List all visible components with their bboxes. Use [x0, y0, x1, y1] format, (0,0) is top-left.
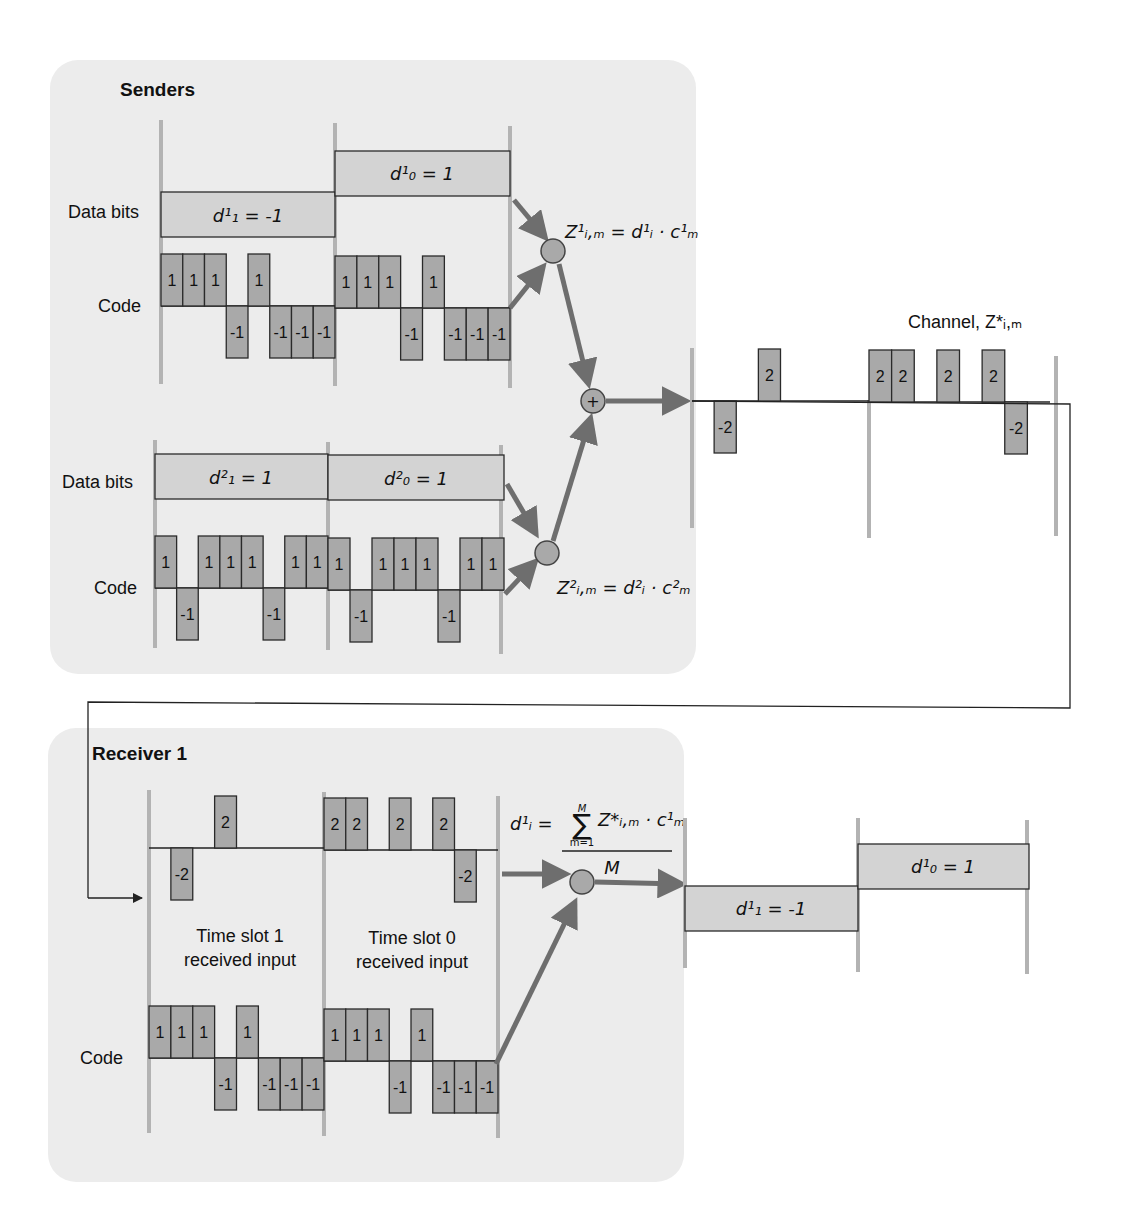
sender1-bit1-label: d¹₁ = -1	[213, 205, 283, 226]
chip-value: 1	[417, 1027, 426, 1044]
chip-value: 1	[205, 554, 214, 571]
chip-value: -1	[284, 1076, 298, 1093]
chip-value: -1	[393, 1079, 407, 1096]
chip-value: -1	[437, 1079, 451, 1096]
receiver-code-label: Code	[80, 1048, 123, 1068]
output-bit0: d¹₀ = 1	[858, 844, 1029, 889]
chip-value: 2	[396, 816, 405, 833]
chip-value: 2	[439, 816, 448, 833]
chip-value: -1	[218, 1076, 232, 1093]
sender2-data-label: Data bits	[62, 472, 133, 492]
slot1-caption-line2: received input	[184, 950, 296, 970]
chip-value: 1	[341, 274, 350, 291]
sender1-bit0-label: d¹₀ = 1	[390, 163, 454, 184]
chip-value: 1	[423, 556, 432, 573]
chip-value: 1	[313, 554, 322, 571]
output-bit1: d¹₁ = -1	[685, 886, 858, 931]
sender1-data-label: Data bits	[68, 202, 139, 222]
chip-value: 2	[944, 368, 953, 385]
chip-value: 1	[254, 272, 263, 289]
chip-value: 2	[898, 368, 907, 385]
formula-lhs: d¹ᵢ =	[510, 813, 553, 834]
sender1-product-formula: Z¹ᵢ,ₘ = d¹ᵢ · c¹ₘ	[564, 221, 699, 242]
chip-value: -1	[230, 324, 244, 341]
chip-value: -1	[180, 606, 194, 623]
chip-value: -1	[274, 324, 288, 341]
chip-value: 1	[177, 1024, 186, 1041]
chip-value: 2	[221, 814, 230, 831]
chip-value: -1	[306, 1076, 320, 1093]
sender2-bit1: d²₁ = 1	[155, 454, 328, 499]
sender1-multiply-node	[541, 239, 565, 263]
chip-value: 2	[352, 816, 361, 833]
chip-value: -1	[404, 326, 418, 343]
chip-value: -1	[262, 1076, 276, 1093]
receiver-multiply-node	[570, 870, 594, 894]
chip-value: 1	[226, 554, 235, 571]
chip-value: 1	[189, 272, 198, 289]
plus-icon: +	[586, 392, 599, 411]
sender1-bit1: d¹₁ = -1	[161, 192, 335, 237]
chip-value: -2	[718, 419, 732, 436]
chip-value: -2	[1009, 420, 1023, 437]
sender2-bit0-label: d²₀ = 1	[384, 468, 448, 489]
sender2-multiply-node	[535, 541, 559, 565]
senders-title: Senders	[120, 79, 195, 100]
formula-lower-limit: m=1	[570, 837, 594, 848]
chip-value: 2	[765, 367, 774, 384]
chip-value: -1	[442, 608, 456, 625]
chip-value: 1	[167, 272, 176, 289]
chip-value: -1	[470, 326, 484, 343]
chip-value: -1	[448, 326, 462, 343]
chip-value: -1	[295, 324, 309, 341]
formula-numerator: Z*ᵢ,ₘ · c¹ₘ	[597, 809, 685, 830]
chip-value: 1	[467, 556, 476, 573]
chip-value: 1	[211, 272, 220, 289]
sender1-code-label: Code	[98, 296, 141, 316]
slot1-caption-line1: Time slot 1	[196, 926, 283, 946]
chip-value: 1	[379, 556, 388, 573]
chip-value: -1	[317, 324, 331, 341]
receiver-title: Receiver 1	[92, 743, 188, 764]
chip-value: 1	[291, 554, 300, 571]
chip-value: 1	[248, 554, 257, 571]
chip-value: 1	[374, 1027, 383, 1044]
chip-value: 1	[489, 556, 498, 573]
chip-value: 1	[363, 274, 372, 291]
chip-value: 1	[429, 274, 438, 291]
sender1-bit0: d¹₀ = 1	[335, 151, 510, 196]
chip-value: 1	[243, 1024, 252, 1041]
chip-value: -1	[267, 606, 281, 623]
chip-value: 1	[155, 1024, 164, 1041]
chip-value: 2	[876, 368, 885, 385]
chip-value: -1	[492, 326, 506, 343]
sender2-bit1-label: d²₁ = 1	[209, 467, 273, 488]
output-bit1-label: d¹₁ = -1	[736, 898, 806, 919]
chip-value: -1	[354, 608, 368, 625]
sender2-product-formula: Z²ᵢ,ₘ = d²ᵢ · c²ₘ	[556, 577, 691, 598]
chip-value: -2	[175, 866, 189, 883]
chip-value: 1	[401, 556, 410, 573]
channel-label: Channel, Z*ᵢ,ₘ	[908, 312, 1022, 332]
chip-value: -1	[458, 1079, 472, 1096]
slot0-caption-line2: received input	[356, 952, 468, 972]
slot0-caption-line1: Time slot 0	[368, 928, 455, 948]
chip-value: 1	[330, 1027, 339, 1044]
sender2-code-label: Code	[94, 578, 137, 598]
chip-value: 1	[335, 556, 344, 573]
output-bit0-label: d¹₀ = 1	[911, 856, 975, 877]
cdma-diagram: Senders Receiver 1 Data bits d¹₁ = -1 d¹…	[0, 0, 1122, 1220]
chip-value: -2	[458, 868, 472, 885]
chip-value: 1	[199, 1024, 208, 1041]
formula-denominator: M	[604, 857, 620, 878]
chip-value: -1	[480, 1079, 494, 1096]
chip-value: 1	[352, 1027, 361, 1044]
sender2-bit0: d²₀ = 1	[328, 455, 504, 500]
chip-value: 1	[161, 554, 170, 571]
chip-value: 2	[330, 816, 339, 833]
chip-value: 2	[989, 368, 998, 385]
chip-value: 1	[385, 274, 394, 291]
